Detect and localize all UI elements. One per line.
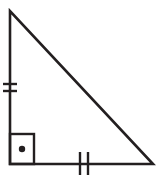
right-triangle-figure — [0, 0, 159, 179]
right-angle-dot — [19, 146, 25, 152]
